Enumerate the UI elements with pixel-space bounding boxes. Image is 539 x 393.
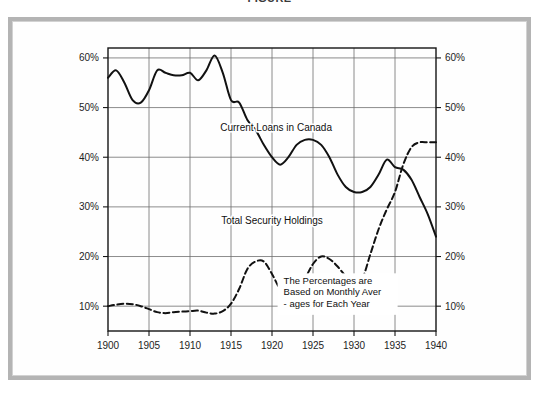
chart-area: 10%10%20%20%30%30%40%40%50%50%60%60%1900… <box>8 17 531 380</box>
x-axis-label: 1900 <box>97 340 120 351</box>
y-axis-label-left: 20% <box>79 251 99 262</box>
note-line: The Percentages are <box>284 275 373 286</box>
annotations-layer: Current Loans in CanadaCurrent Loans in … <box>220 122 397 314</box>
y-axis-label-right: 60% <box>445 52 465 63</box>
y-axis-label-left: 60% <box>79 52 99 63</box>
x-axis-label: 1915 <box>220 340 243 351</box>
y-axis-label-left: 40% <box>79 152 99 163</box>
current-loans-label: Current Loans in Canada <box>220 122 332 133</box>
title-strip: FIGURE <box>0 0 539 9</box>
y-axis-label-left: 50% <box>79 102 99 113</box>
x-axis-label: 1920 <box>261 340 284 351</box>
note-line: - ages for Each Year <box>284 298 370 309</box>
x-axis-label: 1905 <box>138 340 161 351</box>
y-axis-label-left: 30% <box>79 201 99 212</box>
x-axis-label: 1940 <box>425 340 448 351</box>
y-axis-label-right: 20% <box>445 251 465 262</box>
chart-title: FIGURE <box>0 0 539 4</box>
y-axis-label-left: 10% <box>79 301 99 312</box>
x-axis-label: 1925 <box>302 340 325 351</box>
y-axis-label-right: 40% <box>445 152 465 163</box>
x-axis-label: 1910 <box>179 340 202 351</box>
y-axis-label-right: 50% <box>445 102 465 113</box>
y-axis-label-right: 30% <box>445 201 465 212</box>
x-axis-label: 1930 <box>343 340 366 351</box>
line-chart-svg: 10%10%20%20%30%30%40%40%50%50%60%60%1900… <box>8 17 531 380</box>
x-axis-label: 1935 <box>384 340 407 351</box>
total-security-label: Total Security Holdings <box>221 215 323 226</box>
note-line: Based on Monthly Aver <box>284 286 382 297</box>
y-axis-label-right: 10% <box>445 301 465 312</box>
